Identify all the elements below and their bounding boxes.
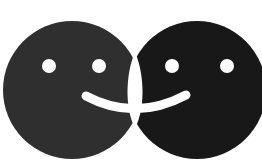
- left-face-icon: [3, 21, 141, 159]
- left-face-left-eye: [42, 59, 56, 73]
- right-face-right-eye: [220, 59, 234, 73]
- smiley-faces-logo: [0, 0, 262, 168]
- left-face-right-eye: [92, 59, 106, 73]
- right-face-icon: [128, 21, 262, 159]
- right-face-left-eye: [165, 59, 179, 73]
